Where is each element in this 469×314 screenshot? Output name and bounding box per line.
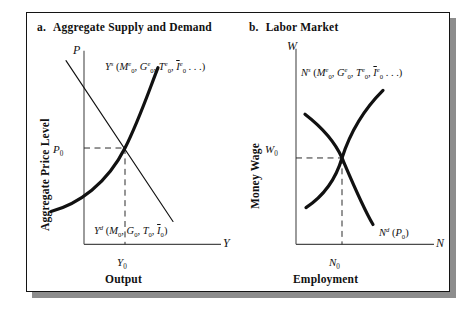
panel-b-y-axis-symbol: W	[287, 39, 297, 54]
panel-labor-market: b.Labor Market W N W0 N0	[243, 13, 451, 291]
panel-a-x-axis-symbol: Y	[223, 236, 230, 251]
labor-supply-curve	[306, 90, 383, 207]
panel-b-x-tick-n0: N0	[329, 256, 340, 268]
panel-a-x-axis-title: Output	[105, 273, 142, 285]
panel-aggregate-supply-and-demand: a.Aggregate Supply and Demand P Y P0	[27, 13, 243, 291]
cropped-caption-text: ...	[24, 0, 35, 1]
panel-b-x-axis-symbol: N	[436, 236, 444, 251]
figure-frame: a.Aggregate Supply and Demand P Y P0	[26, 12, 450, 292]
figure-root: ... a.Aggregate Supply and Demand	[0, 0, 469, 314]
panel-a-y-axis-title: Aggregate Price Level	[39, 118, 51, 231]
panel-a-y-axis-symbol: P	[73, 43, 80, 58]
panel-b-y-tick-w0: W0	[265, 143, 278, 155]
aggregate-supply-curve-label: Ys (Me0, Ge0, Te0, Ie0 . . .)	[105, 61, 205, 72]
panel-b-x-axis-title: Employment	[293, 273, 358, 285]
labor-demand-curve-label: Nd (P0)	[379, 227, 409, 238]
panel-a-x-tick-y0: Y0	[117, 256, 127, 268]
aggregate-supply-curve	[51, 68, 158, 212]
panel-a-y-tick-p0: P0	[53, 143, 63, 155]
labor-supply-curve-label: Ns (Me0, Ge0, Te0, Ie0 . . .)	[301, 67, 402, 78]
aggregate-demand-curve-label: Yd (M0, G0, T0, I0)	[94, 225, 167, 236]
panel-b-y-axis-title: Money Wage	[249, 143, 261, 209]
